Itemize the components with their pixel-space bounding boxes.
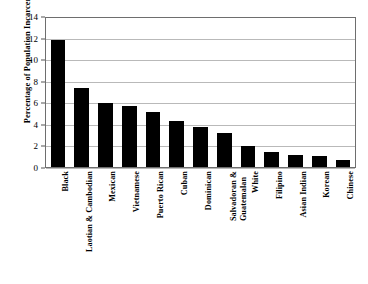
x-tick-label-line: Dominican	[204, 171, 213, 210]
x-tick-label: Mexican	[108, 171, 117, 202]
bar	[122, 106, 137, 167]
x-tick-label: Dominican	[204, 171, 213, 210]
x-tick-label: Salvadoran &Guatemalan	[229, 171, 248, 221]
x-tick-label-line: Asian Indian	[299, 171, 308, 217]
bar	[264, 152, 279, 167]
x-tick-label: Black	[61, 171, 70, 192]
y-tick-label: 10	[29, 55, 38, 65]
x-tick-label-line: Laotian & Cambodian	[85, 171, 94, 252]
x-tick-label: Cuban	[180, 171, 189, 195]
bar	[98, 103, 113, 167]
x-tick-label-line: Korean	[322, 171, 331, 198]
x-tick-label: Laotian & Cambodian	[85, 171, 94, 252]
bar	[288, 155, 303, 167]
x-tick-label-line: Cuban	[180, 171, 189, 195]
x-tick-label: Vietnamese	[132, 171, 141, 212]
bar	[146, 112, 161, 167]
y-tick-label: 8	[34, 77, 39, 87]
x-tick-label: Filipino	[275, 171, 284, 199]
bar	[217, 133, 232, 167]
x-tick-label-line: White	[251, 171, 260, 193]
x-tick-label: Chinese	[346, 171, 355, 199]
bar	[51, 40, 66, 167]
x-tick-label: Asian Indian	[299, 171, 308, 217]
y-tick-label: 4	[34, 120, 39, 130]
bar	[312, 156, 327, 167]
x-tick-label-line: Filipino	[275, 171, 284, 199]
x-axis-labels: BlackLaotian & CambodianMexicanVietnames…	[46, 171, 355, 281]
x-tick-label-line: Black	[61, 171, 70, 192]
x-tick-label: Puerto Rican	[156, 171, 165, 218]
bar	[241, 146, 256, 167]
y-axis-ticks: 02468101214	[0, 17, 45, 168]
x-tick-label-line: Puerto Rican	[156, 171, 165, 218]
bar	[74, 88, 89, 167]
y-tick-label: 6	[34, 98, 39, 108]
y-tick-label: 14	[29, 12, 38, 22]
bar	[193, 127, 208, 167]
x-tick-label: White	[251, 171, 260, 193]
x-tick-label-line: Vietnamese	[132, 171, 141, 212]
x-tick-label-line: Mexican	[108, 171, 117, 202]
y-tick-label: 2	[34, 141, 39, 151]
x-tick-label: Korean	[322, 171, 331, 198]
bar-chart: Percentage of Population Incarcerated 02…	[0, 0, 368, 284]
x-tick-label-line: Salvadoran &	[229, 171, 238, 221]
y-tick-label: 0	[34, 163, 39, 173]
gridline	[46, 168, 355, 169]
x-tick-label-line: Chinese	[346, 171, 355, 199]
bar	[336, 160, 351, 167]
y-tick-label: 12	[29, 34, 38, 44]
bars-container	[46, 18, 355, 167]
bar	[169, 121, 184, 167]
x-tick-label-line: Guatemalan	[239, 171, 249, 221]
